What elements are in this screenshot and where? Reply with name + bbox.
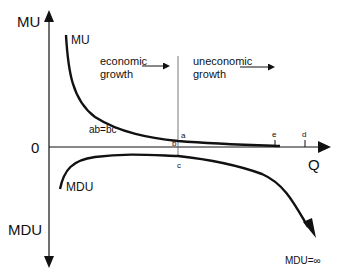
uneconomic-growth-line1: uneconomic: [193, 55, 252, 68]
mu-curve-label: MU: [71, 34, 90, 46]
y-axis-bottom-label: MDU: [8, 222, 42, 237]
x-axis-arrow-icon: [318, 141, 331, 153]
point-d-label: d: [302, 131, 306, 139]
uneconomic-growth-label: uneconomic growth: [193, 55, 252, 81]
equality-annotation: ab=bc: [89, 125, 117, 135]
economic-growth-line1: economic: [100, 55, 147, 68]
uneconomic-growth-line2: growth: [193, 68, 252, 81]
economic-growth-line2: growth: [100, 68, 147, 81]
y-axis: [44, 10, 54, 268]
point-a-label: a: [181, 132, 185, 140]
economic-growth-label: economic growth: [100, 55, 147, 81]
mdu-curve-label: MDU: [66, 181, 93, 193]
mdu-curve: [60, 155, 308, 227]
origin-label: 0: [31, 140, 39, 155]
point-e-label: e: [272, 131, 276, 139]
diagram-canvas: [0, 0, 344, 276]
y-axis-down-arrow-icon: [44, 256, 54, 268]
point-b-label: b: [172, 140, 176, 148]
y-axis-top-label: MU: [17, 14, 40, 29]
point-c-label: c: [177, 162, 181, 170]
x-axis-label: Q: [308, 157, 320, 172]
mdu-infinity-annotation: MDU=∞: [285, 256, 321, 266]
y-axis-up-arrow-icon: [44, 10, 54, 22]
